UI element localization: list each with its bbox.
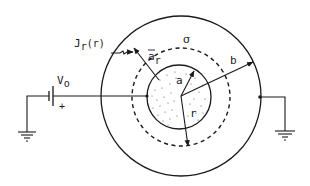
left-wire-to-ground bbox=[27, 96, 49, 132]
outer-radius-label: b bbox=[230, 54, 237, 67]
spherical-capacitor-diagram: Jr(r) ar σ b a r Vo + bbox=[0, 0, 310, 186]
polarity-plus-label: + bbox=[59, 101, 65, 112]
current-density-label: Jr(r) bbox=[74, 37, 105, 52]
right-wire-to-ground bbox=[260, 97, 285, 131]
inner-radius-label: a bbox=[176, 74, 183, 87]
right-ground-icon bbox=[275, 131, 295, 140]
conductivity-label: σ bbox=[183, 33, 191, 46]
left-ground-icon bbox=[18, 132, 36, 141]
radial-distance-label: r bbox=[190, 107, 197, 120]
voltage-label: Vo bbox=[57, 74, 70, 89]
unit-vector-label: ar bbox=[148, 50, 161, 66]
inner-sphere-contact bbox=[145, 94, 148, 97]
